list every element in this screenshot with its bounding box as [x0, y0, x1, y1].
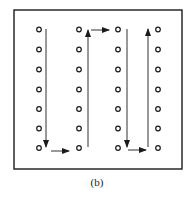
grid-point	[156, 67, 161, 72]
grid-point	[37, 87, 42, 92]
grid-point	[77, 47, 82, 52]
grid-point	[116, 27, 121, 32]
grid-point	[116, 146, 121, 151]
grid-point	[156, 146, 161, 151]
grid-point	[37, 67, 42, 72]
grid-point	[37, 47, 42, 52]
grid-point	[156, 126, 161, 131]
grid-point	[77, 27, 82, 32]
grid-point	[77, 107, 82, 112]
grid-point	[156, 47, 161, 52]
grid-point	[37, 126, 42, 131]
grid-point	[156, 87, 161, 92]
grid-point	[116, 47, 121, 52]
grid-point	[116, 107, 121, 112]
grid-points	[37, 27, 161, 150]
scan-path-arrows	[46, 29, 148, 151]
grid-point	[37, 146, 42, 151]
grid-point	[156, 107, 161, 112]
grid-point	[116, 67, 121, 72]
grid-point	[37, 107, 42, 112]
grid-point	[77, 146, 82, 151]
grid-point	[37, 27, 42, 32]
grid-point	[116, 126, 121, 131]
figure-caption: (b)	[0, 176, 194, 188]
grid-point	[116, 87, 121, 92]
grid-point	[77, 67, 82, 72]
grid-point	[77, 87, 82, 92]
grid-point	[77, 126, 82, 131]
scan-path-diagram	[0, 0, 194, 201]
grid-point	[156, 27, 161, 32]
